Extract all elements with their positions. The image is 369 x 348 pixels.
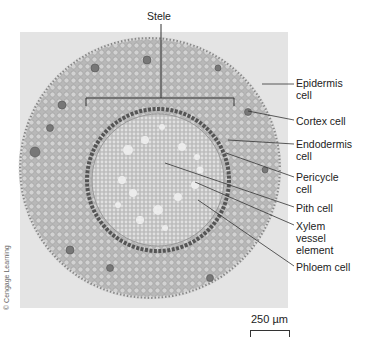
label-phloem-cell: Phloem cell — [296, 261, 350, 273]
pericycle-ring — [92, 114, 224, 246]
label-epidermis-cell: Epidermis cell — [296, 77, 343, 101]
scale-bar-label: 250 µm — [251, 313, 288, 325]
scale-bar — [250, 330, 290, 337]
label-endodermis-cell: Endodermis cell — [296, 138, 352, 162]
stele-label: Stele — [147, 10, 171, 22]
label-xylem-vessel-element: Xylem vessel element — [296, 220, 333, 256]
copyright-credit: © Cengage Learning — [3, 245, 10, 310]
label-pericycle-cell: Pericycle cell — [296, 171, 339, 195]
label-cortex-cell: Cortex cell — [296, 115, 346, 127]
label-pith-cell: Pith cell — [296, 202, 333, 214]
